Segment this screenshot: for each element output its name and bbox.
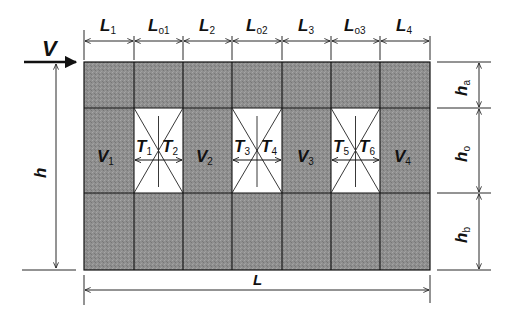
dim-L4: L4 — [396, 16, 412, 36]
dim-Lo2: Lo2 — [246, 16, 268, 36]
masonry-wall — [84, 62, 430, 270]
dim-L3: L3 — [298, 16, 314, 36]
dim-ha: ha — [452, 80, 472, 96]
dim-L1: L1 — [100, 16, 116, 36]
left-dimension — [22, 64, 76, 270]
dim-hb: hb — [452, 227, 472, 243]
load-label: V — [42, 36, 59, 61]
dim-h: h — [31, 168, 50, 178]
dim-Lo3: Lo3 — [344, 16, 366, 36]
dim-Lo1: Lo1 — [148, 16, 170, 36]
dim-L2: L2 — [199, 16, 215, 36]
dim-L: L — [253, 271, 262, 288]
wall-diagram: V1 V2 V3 V4 T1 T2 T3 T4 T5 T6 L1 Lo1 L2 … — [0, 0, 515, 319]
dim-ho: ho — [452, 146, 472, 162]
